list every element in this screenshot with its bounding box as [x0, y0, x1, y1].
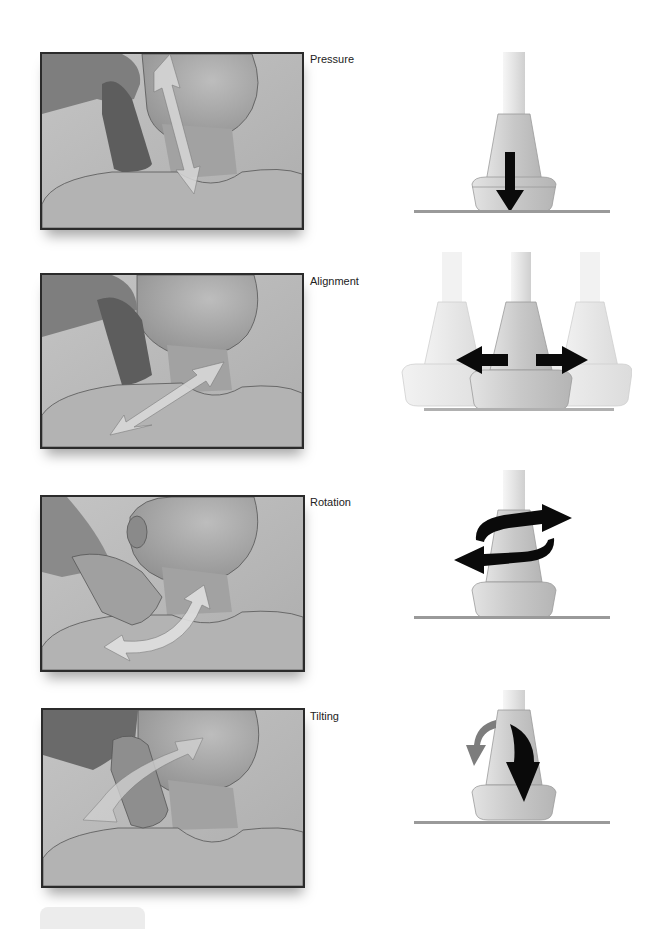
alignment-label: Alignment: [310, 275, 359, 287]
rotation-illustration: [42, 497, 303, 670]
rotation-label: Rotation: [310, 496, 351, 508]
tilting-probe-diagram: [414, 690, 614, 830]
rotation-photo: [40, 495, 305, 672]
pressure-illustration: [42, 54, 302, 228]
surface-line: [414, 210, 610, 213]
pressure-photo: [40, 52, 304, 230]
rotation-probe-diagram: [414, 470, 614, 625]
tilting-label: Tilting: [310, 710, 339, 722]
pressure-label: Pressure: [310, 53, 354, 65]
surface-line: [414, 616, 610, 619]
surface-line: [424, 408, 614, 411]
tilting-illustration: [43, 710, 303, 886]
figure-caption: [40, 907, 360, 921]
alignment-photo: [40, 273, 304, 449]
caption-label-pill: [40, 907, 145, 929]
alignment-probe-diagram: [400, 252, 632, 417]
pressure-probe-diagram: [414, 52, 614, 217]
surface-line: [414, 821, 610, 824]
tilting-photo: [41, 708, 305, 888]
alignment-illustration: [42, 275, 302, 447]
probe-cable: [503, 690, 525, 710]
probe-cable: [503, 470, 525, 510]
probe-cable: [503, 52, 525, 114]
